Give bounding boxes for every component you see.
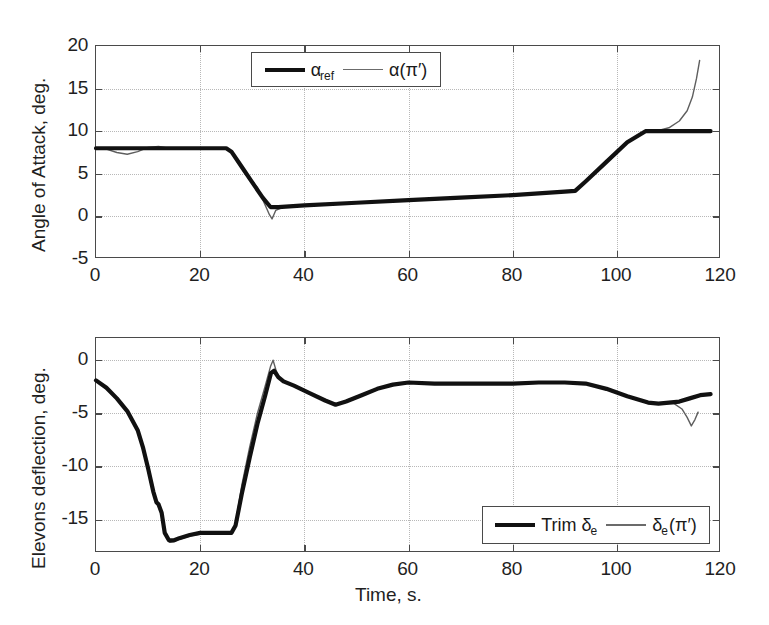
x-tick-label-e-60: 60 (397, 558, 418, 580)
y-tick-label-5: 5 (48, 162, 88, 184)
x-tick-label-e-100: 100 (600, 558, 631, 580)
legend-entry-alpha-ref[interactable]: αref (265, 61, 335, 79)
y-tick-label-e-neg5: -5 (44, 401, 88, 423)
legend-elevons-deflection[interactable]: Trim δe δe(π′) (482, 506, 710, 544)
y-tick-label-20: 20 (48, 34, 88, 56)
y-axis-title-angle-of-attack: Angle of Attack, deg. (28, 78, 50, 252)
x-tick-label-e-40: 40 (293, 558, 314, 580)
legend-label-alpha-pi: α(π′) (389, 61, 427, 79)
series-path-alpha-ref (96, 131, 711, 207)
x-tick-label-e-0: 0 (90, 558, 100, 580)
legend-entry-delta-e-pi[interactable]: δe(π′) (606, 516, 697, 534)
legend-entry-trim-delta-e[interactable]: Trim δe (495, 516, 598, 534)
x-tick-label-0: 0 (90, 264, 100, 286)
x-tick-label-120: 120 (705, 264, 736, 286)
y-tick-label-e-neg15: -15 (38, 507, 88, 529)
x-tick-label-e-20: 20 (189, 558, 210, 580)
legend-label-delta-e-pi: δe(π′) (652, 516, 697, 534)
x-tick-label-100: 100 (600, 264, 631, 286)
x-tick-label-40: 40 (293, 264, 314, 286)
legend-label-alpha-ref: αref (311, 61, 335, 79)
legend-entry-alpha-pi[interactable]: α(π′) (343, 61, 427, 79)
x-tick-label-80: 80 (501, 264, 522, 286)
y-tick-label-15: 15 (48, 77, 88, 99)
legend-line-thin-icon (606, 524, 646, 525)
y-tick-label-e-0: 0 (48, 348, 88, 370)
figure-root: Angle of Attack, deg. 20 15 10 5 0 -5 (0, 0, 769, 625)
legend-label-trim-delta-e: Trim δe (541, 516, 598, 534)
panel-angle-of-attack: Angle of Attack, deg. 20 15 10 5 0 -5 (0, 0, 769, 312)
x-tick-label-20: 20 (189, 264, 210, 286)
x-axis-title-time: Time, s. (355, 584, 422, 606)
y-tick-label-e-neg10: -10 (38, 454, 88, 476)
y-tick-label-0: 0 (48, 204, 88, 226)
plot-area-angle-of-attack: αref α(π′) (95, 45, 720, 258)
x-tick-label-e-80: 80 (501, 558, 522, 580)
legend-line-thick-icon (265, 68, 305, 72)
legend-angle-of-attack[interactable]: αref α(π′) (251, 52, 441, 87)
plot-area-elevons-deflection: Trim δe δe(π′) (95, 337, 720, 552)
y-tick-label-10: 10 (48, 119, 88, 141)
x-tick-label-e-120: 120 (705, 558, 736, 580)
legend-line-thin-icon (343, 69, 383, 70)
legend-line-thick-icon (495, 523, 535, 527)
panel-elevons-deflection: Elevons deflection, deg. 0 -5 -10 -15 (0, 312, 769, 625)
y-tick-label-neg5: -5 (44, 247, 88, 269)
x-tick-label-60: 60 (397, 264, 418, 286)
